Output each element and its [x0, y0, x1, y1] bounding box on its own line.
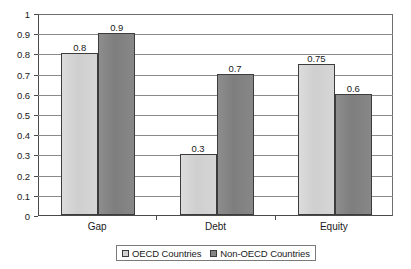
bar — [298, 64, 335, 216]
bar-value-label: 0.3 — [180, 143, 217, 154]
y-axis-tick-label: 0.4 — [0, 130, 30, 141]
bar — [180, 154, 217, 215]
bar — [61, 53, 98, 215]
bar-value-label: 0.6 — [335, 83, 372, 94]
chart-legend: OECD CountriesNon-OECD Countries — [116, 245, 316, 261]
bars-layer: 0.80.90.30.70.750.6 — [39, 15, 392, 215]
x-axis-tick-label: Debt — [205, 221, 226, 232]
y-axis-tick-label: 1 — [0, 9, 30, 20]
bar — [335, 94, 372, 215]
y-axis-tick-label: 0.5 — [0, 110, 30, 121]
y-axis-tick-mark — [34, 216, 38, 217]
legend-item: Non-OECD Countries — [210, 248, 310, 259]
legend-swatch-icon — [210, 250, 217, 257]
bar-value-label: 0.75 — [298, 53, 335, 64]
legend-swatch-icon — [122, 250, 129, 257]
legend-label: OECD Countries — [132, 248, 201, 259]
y-axis-tick-label: 0 — [0, 211, 30, 222]
bar-value-label: 0.7 — [217, 63, 254, 74]
legend-item: OECD Countries — [122, 248, 201, 259]
x-axis-tick-mark — [275, 216, 276, 220]
y-axis-tick-label: 0.1 — [0, 190, 30, 201]
bar-value-label: 0.8 — [61, 42, 98, 53]
bar — [98, 33, 135, 215]
bar-chart: 00.10.20.30.40.50.60.70.80.91 0.80.90.30… — [0, 0, 411, 269]
bar — [217, 74, 254, 215]
plot-area: 0.80.90.30.70.750.6 — [38, 14, 393, 216]
y-axis-tick-label: 0.9 — [0, 29, 30, 40]
y-axis-tick-label: 0.2 — [0, 170, 30, 181]
x-axis-tick-mark — [156, 216, 157, 220]
bar-value-label: 0.9 — [98, 22, 135, 33]
x-axis-labels: GapDebtEquity — [38, 221, 393, 237]
y-axis-tick-label: 0.8 — [0, 49, 30, 60]
x-axis-tick-label: Equity — [320, 221, 348, 232]
x-axis-tick-label: Gap — [88, 221, 107, 232]
legend-label: Non-OECD Countries — [220, 248, 310, 259]
y-axis-tick-label: 0.7 — [0, 69, 30, 80]
y-axis-tick-label: 0.6 — [0, 89, 30, 100]
y-axis-tick-label: 0.3 — [0, 150, 30, 161]
